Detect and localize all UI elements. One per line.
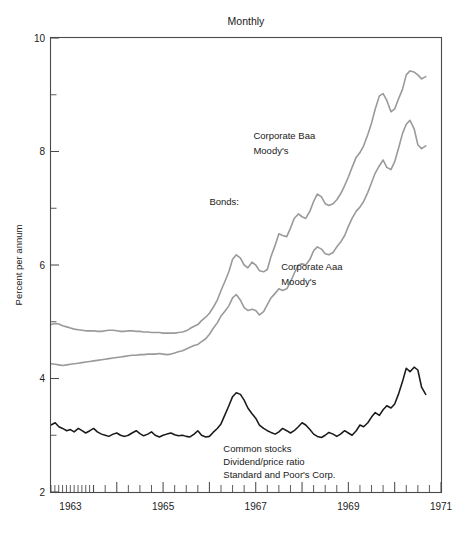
x-tick-label-1965: 1965 — [152, 501, 175, 512]
baa-series-label: Corporate Baa — [253, 130, 316, 141]
x-tick-label-1971: 1971 — [430, 501, 453, 512]
interest-rates-line-chart: Monthly Percent per annum 246810 1963196… — [0, 0, 474, 538]
stocks-series-label-3: Standard and Poor's Corp. — [223, 469, 335, 480]
stocks-series-label-1: Common stocks — [223, 443, 291, 454]
y-tick-label-10: 10 — [34, 33, 46, 44]
baa-series-sublabel: Moody's — [253, 145, 288, 156]
aaa-series-label: Corporate Aaa — [281, 261, 343, 272]
stocks-series-label-2: Dividend/price ratio — [223, 456, 304, 467]
y-tick-label-2: 2 — [39, 487, 45, 498]
y-tick-label-8: 8 — [39, 146, 45, 157]
aaa-series-sublabel: Moody's — [281, 276, 316, 287]
x-tick-label-1969: 1969 — [337, 501, 360, 512]
y-tick-label-6: 6 — [39, 260, 45, 271]
x-tick-label-1967: 1967 — [245, 501, 268, 512]
chart-figure: Monthly Percent per annum 246810 1963196… — [0, 0, 474, 538]
y-tick-label-4: 4 — [39, 373, 45, 384]
bonds-group-label: Bonds: — [209, 196, 239, 207]
x-tick-label-1963: 1963 — [59, 501, 82, 512]
y-axis-label: Percent per annum — [13, 225, 24, 306]
chart-title: Monthly — [228, 15, 266, 27]
